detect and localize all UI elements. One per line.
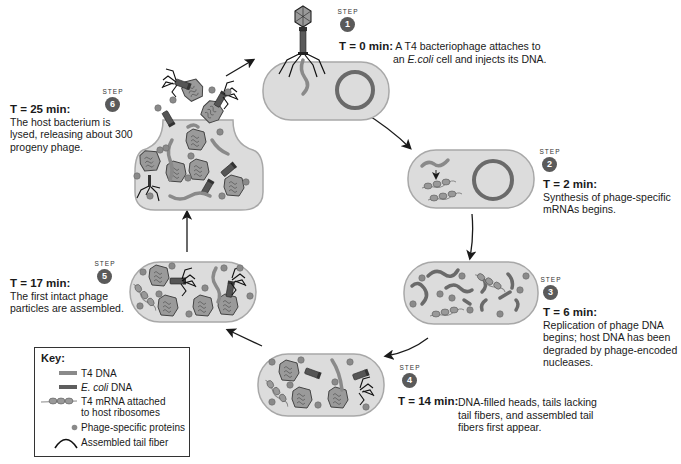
step-number: 2 [542,157,557,172]
step-2-cell [408,150,534,208]
step-1-label: T = 0 min: A T4 bacteriophage attaches t… [339,40,541,53]
step-3-badge: STEP 3 [538,276,564,306]
step-5-time: T = 17 min: [10,277,124,290]
step-1-cell [263,6,389,120]
ecoli-dna-line-icon [59,385,77,390]
step-4-label: T = 14 min: [398,395,458,408]
step-3-cell [404,262,538,324]
mrna-ribosome-icon [41,396,79,406]
step-4-time: T = 14 min: [398,395,458,407]
step-1-desc-line2: an E.coli cell and injects its DNA. [393,53,547,66]
step-number: 4 [402,373,417,388]
step-4-badge: STEP 4 [397,364,423,394]
step-4-desc: DNA-filled heads, tails lacking tail fib… [458,396,597,434]
step-6-label: T = 25 min: The host bacterium is lysed,… [10,103,133,153]
step-2-badge: STEP 2 [537,148,563,178]
step-6-lysed-cell [134,69,263,210]
step-6-time: T = 25 min: [10,103,133,116]
step-number: 1 [340,17,355,32]
step-1-time: T = 0 min: [339,40,393,52]
legend-key: Key: T4 DNA E. coli DNA T4 mRNA attached… [34,347,190,457]
step-3-label: T = 6 min: Replication of phage DNA begi… [543,306,677,369]
step-2-time: T = 2 min: [543,178,671,191]
step-2-label: T = 2 min: Synthesis of phage-specific m… [543,178,671,216]
step-1-badge: STEP 1 [335,8,361,38]
protein-dot-icon [71,424,78,431]
step-4-cell [258,354,384,416]
step-5-label: T = 17 min: The first intact phage parti… [10,277,124,315]
legend-title: Key: [41,352,65,364]
step-5-cell [130,262,256,322]
step-1-desc-line1: A T4 bacteriophage attaches to [395,40,540,52]
step-3-time: T = 6 min: [543,306,677,319]
tail-fiber-arc-icon [54,437,78,449]
t4-dna-line-icon [59,371,77,376]
step-number: 3 [543,285,558,300]
